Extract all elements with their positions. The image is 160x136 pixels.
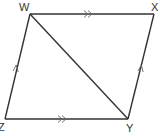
vertex-label-w: W [19,1,30,13]
vertex-label-z: Z [0,121,5,133]
parallelogram-diagram: W X Y Z [0,0,160,136]
vertex-label-x: X [151,1,159,13]
diagonal-wy [30,14,128,119]
edge-zw [5,14,30,119]
edge-xy [128,14,154,119]
vertex-label-y: Y [126,122,134,134]
